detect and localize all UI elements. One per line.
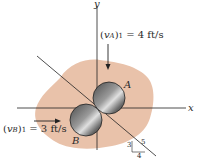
velocity-a-label: (vA)1 = 4 ft/s [100, 30, 164, 40]
ball-b [70, 104, 102, 136]
ball-b-label: B [72, 136, 79, 146]
slope-run: 4 [137, 153, 141, 160]
slope-hypotenuse: 5 [141, 139, 145, 146]
x-axis-label: x [188, 103, 194, 113]
collision-diagram [0, 0, 197, 162]
y-axis-label: y [94, 0, 100, 9]
velocity-b-label: (vB)1 = 3 ft/s [3, 124, 67, 134]
ball-a-label: A [124, 80, 131, 90]
slope-rise: 3 [127, 142, 131, 149]
